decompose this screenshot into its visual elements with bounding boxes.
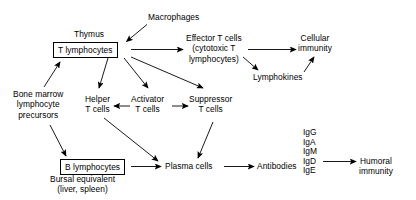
edge-bone-marrow-to-b-lymphocytes <box>50 125 66 156</box>
node-lymphokines: Lymphokines <box>253 72 303 82</box>
node-b-lymphocytes-label: B lymphocytes <box>65 162 120 172</box>
node-bursal-equivalent-line2: (liver, spleen) <box>57 184 108 194</box>
node-bone-marrow-line3: precursors <box>18 110 58 120</box>
node-cellular-immunity-line2: immunity <box>298 43 332 53</box>
node-effector-t-cells: Effector T cells (cytotoxic T lymphocyte… <box>186 33 242 64</box>
node-suppressor-t-cells-line2: T cells <box>198 104 222 114</box>
node-bone-marrow-line2: lymphocyte <box>17 99 60 109</box>
node-bone-marrow-lymphocyte-precursors: Bone marrow lymphocyte precursors <box>13 89 63 120</box>
node-effector-t-cells-line1: Effector T cells <box>186 33 242 43</box>
node-thymus-label: Thymus <box>74 29 104 39</box>
node-macrophages: Macrophages <box>148 12 199 22</box>
node-suppressor-t-cells: Suppressor T cells <box>189 94 232 115</box>
node-t-lymphocytes-label: T lymphocytes <box>58 45 113 55</box>
edge-helper-t-cells-to-plasma-cells <box>104 118 158 161</box>
node-bone-marrow-line1: Bone marrow <box>13 89 63 99</box>
node-cellular-immunity-line1: Cellular <box>301 33 330 43</box>
node-suppressor-t-cells-line1: Suppressor <box>189 94 232 104</box>
node-activator-t-cells: Activator T cells <box>131 94 164 115</box>
immunology-flow-diagram: Macrophages Thymus T lymphocytes Effecto… <box>0 0 416 200</box>
node-lymphokines-label: Lymphokines <box>253 72 303 82</box>
node-bursal-equivalent: Bursal equivalent (liver, spleen) <box>50 174 115 195</box>
edge-macrophages-to-t-lymphocytes <box>127 25 148 42</box>
node-antibodies: Antibodies <box>257 161 297 171</box>
node-humoral-immunity-line2: immunity <box>359 166 393 176</box>
node-humoral-immunity: Humoral immunity <box>359 156 393 177</box>
edge-effector-t-cells-to-lymphokines <box>243 57 258 70</box>
node-bursal-equivalent-line1: Bursal equivalent <box>50 174 115 184</box>
node-effector-t-cells-line3: lymphocytes) <box>189 54 239 64</box>
node-t-lymphocytes: T lymphocytes <box>53 42 118 58</box>
node-activator-t-cells-line2: T cells <box>135 104 159 114</box>
edge-lymphokines-to-cellular-immunity <box>304 57 314 72</box>
node-effector-t-cells-line2: (cytotoxic T <box>192 43 235 53</box>
node-cellular-immunity: Cellular immunity <box>298 33 332 54</box>
node-thymus: Thymus <box>74 29 104 39</box>
node-antibodies-label: Antibodies <box>257 161 297 171</box>
node-b-lymphocytes: B lymphocytes <box>60 159 125 175</box>
node-humoral-immunity-line1: Humoral <box>360 156 392 166</box>
immunoglobulin-list: IgG IgA IgM IgD IgE <box>303 128 317 176</box>
edge-suppressor-t-cells-to-plasma-cells <box>198 122 213 158</box>
node-helper-t-cells-line1: Helper <box>85 94 110 104</box>
edge-bone-marrow-to-t-lymphocytes <box>44 62 60 87</box>
node-macrophages-label: Macrophages <box>148 12 199 22</box>
edge-t-lymphocytes-to-helper-t-cells <box>99 58 108 88</box>
node-plasma-cells-label: Plasma cells <box>165 161 213 171</box>
node-helper-t-cells: Helper T cells <box>85 94 110 115</box>
node-activator-t-cells-line1: Activator <box>131 94 164 104</box>
node-plasma-cells: Plasma cells <box>165 161 213 171</box>
immunoglobulin-ige: IgE <box>303 166 317 176</box>
node-helper-t-cells-line2: T cells <box>85 104 109 114</box>
